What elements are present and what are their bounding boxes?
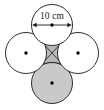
four-circles-svg: 10 cm [0, 0, 104, 110]
circle-right-center-dot [76, 51, 79, 54]
geometry-figure: 10 cm [0, 0, 104, 110]
dimension-label: 10 cm [40, 11, 64, 21]
circle-top-center-dot [50, 23, 53, 26]
circle-left-center-dot [24, 51, 27, 54]
circle-bottom-center-dot [50, 81, 53, 84]
